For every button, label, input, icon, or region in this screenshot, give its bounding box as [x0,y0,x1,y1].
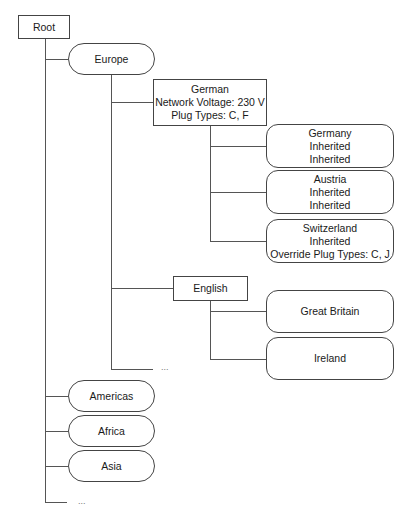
connector-americas [45,396,68,397]
node-title: Switzerland [303,222,357,235]
plug-value: Override Plug Types: C, J [270,248,389,261]
root-node: Root [18,15,70,39]
connector-ireland [210,359,266,360]
connector-asia [45,466,68,467]
region-node-asia: Asia [68,450,155,482]
connector-europe [45,59,68,60]
europe-trunk-line [111,74,112,369]
node-title: Great Britain [301,305,360,318]
region-node-africa: Africa [68,415,155,447]
connector-europe-more [111,369,153,370]
plug-value: Inherited [310,153,351,166]
voltage-value: Inherited [310,140,351,153]
connector-germany [210,146,266,147]
language-group-node-german: German Network Voltage: 230 V Plug Types… [153,79,267,126]
node-title: Germany [308,127,351,140]
region-label: Asia [101,460,121,473]
node-title: German [191,83,229,96]
german-trunk-line [210,125,211,241]
connector-german [111,102,153,103]
region-label: Europe [95,53,129,66]
region-node-europe: Europe [68,43,155,75]
connector-root-more [45,502,67,503]
country-node-ireland: Ireland [266,337,394,380]
connector-austria [210,192,266,193]
region-node-americas: Americas [68,380,155,412]
connector-english [111,288,173,289]
node-title: English [193,282,227,295]
root-more-ellipsis: ... [78,496,86,506]
country-node-austria: Austria Inherited Inherited [266,170,394,214]
connector-great-britain [210,311,266,312]
plug-types: Plug Types: C, F [171,109,248,122]
node-title: Ireland [314,352,346,365]
root-trunk-line [45,38,46,502]
country-node-switzerland: Switzerland Inherited Override Plug Type… [266,219,394,263]
country-node-germany: Germany Inherited Inherited [266,124,394,168]
plug-value: Inherited [310,199,351,212]
node-title: Austria [314,173,347,186]
network-voltage: Network Voltage: 230 V [155,96,265,109]
english-trunk-line [210,300,211,359]
voltage-value: Inherited [310,235,351,248]
region-label: Americas [90,390,134,403]
country-node-great-britain: Great Britain [266,290,394,333]
voltage-value: Inherited [310,186,351,199]
connector-africa [45,431,68,432]
connector-switzerland [210,241,266,242]
region-label: Africa [98,425,125,438]
language-group-node-english: English [173,276,248,301]
europe-more-ellipsis: ... [161,362,169,372]
root-label: Root [33,21,55,34]
